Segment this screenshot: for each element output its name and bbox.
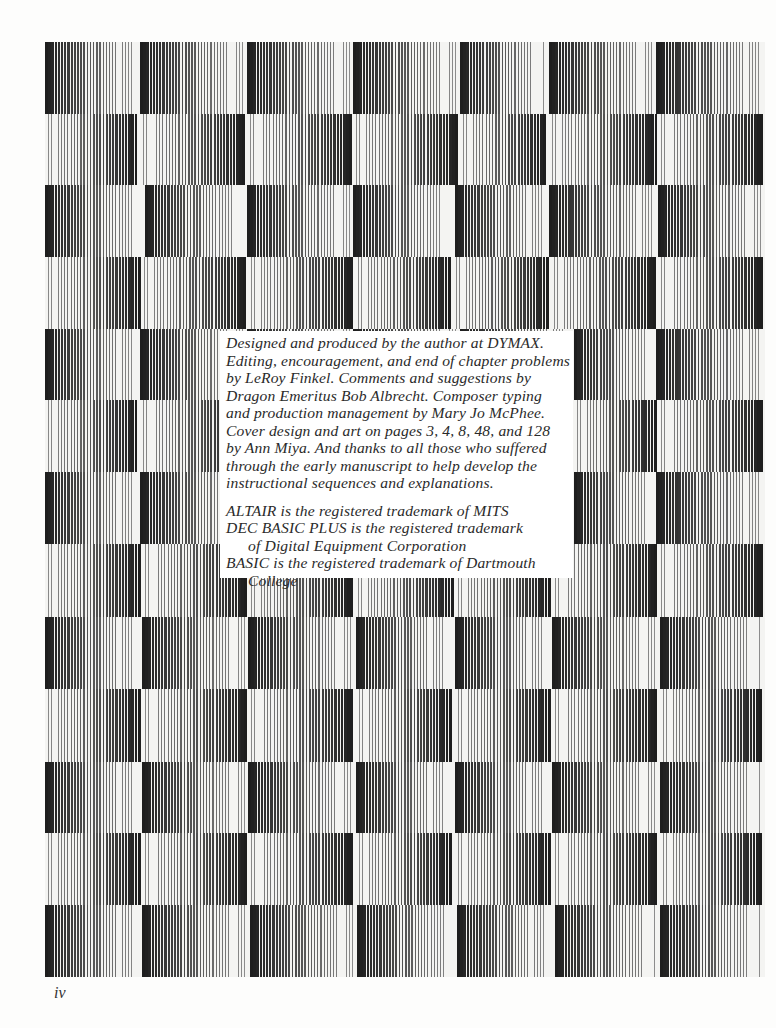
- pattern-tile: [549, 114, 658, 185]
- pattern-tile: [552, 833, 660, 905]
- paragraph-spacer: [226, 492, 573, 502]
- pattern-tile: [248, 689, 356, 762]
- pattern-tile: [247, 185, 353, 257]
- pattern-tile: [356, 617, 455, 689]
- trademark-line: DEC BASIC PLUS is the registered tradema…: [226, 519, 573, 537]
- credits-paragraph: Designed and produced by the author at D…: [226, 334, 573, 492]
- pattern-tile: [141, 257, 248, 329]
- pattern-tile: [551, 257, 658, 329]
- pattern-tile: [145, 185, 247, 257]
- pattern-tile: [45, 617, 142, 689]
- pattern-tile: [656, 472, 765, 544]
- pattern-tile: [45, 544, 142, 617]
- credits-line: Cover design and art on pages 3, 4, 8, 4…: [226, 422, 573, 440]
- pattern-tile: [552, 762, 660, 833]
- trademark-line-continued: College: [226, 572, 573, 590]
- pattern-tile: [453, 257, 551, 329]
- pattern-tile: [45, 329, 140, 400]
- pattern-tile: [353, 114, 460, 185]
- credits-line: Designed and produced by the author at D…: [226, 334, 573, 352]
- pattern-tile: [660, 833, 765, 905]
- pattern-tile: [658, 185, 765, 257]
- pattern-tile: [248, 257, 355, 329]
- pattern-tile: [460, 42, 549, 114]
- pattern-tile: [656, 329, 765, 400]
- credits-line: and production management by Mary Jo McP…: [226, 404, 573, 422]
- pattern-tile: [455, 833, 552, 905]
- trademark-notices: ALTAIR is the registered trademark of MI…: [226, 502, 573, 590]
- pattern-tile: [660, 617, 765, 689]
- pattern-tile: [45, 257, 141, 329]
- trademark-line-continued: of Digital Equipment Corporation: [226, 537, 573, 555]
- pattern-tile: [460, 114, 549, 185]
- pattern-tile: [457, 905, 555, 977]
- pattern-tile: [353, 42, 460, 114]
- pattern-tile: [140, 42, 247, 114]
- pattern-tile: [660, 905, 765, 977]
- pattern-tile: [355, 257, 453, 329]
- pattern-tile: [247, 42, 353, 114]
- pattern-tile: [250, 905, 357, 977]
- pattern-tile: [142, 689, 248, 762]
- pattern-tile: [248, 833, 356, 905]
- pattern-tile: [574, 329, 656, 400]
- credits-line: instructional sequences and explanations…: [226, 474, 573, 492]
- credits-line: by Ann Miya. And thanks to all those who…: [226, 439, 573, 457]
- pattern-tile: [555, 905, 660, 977]
- pattern-tile: [660, 689, 765, 762]
- pattern-tile: [142, 762, 248, 833]
- pattern-tile: [574, 400, 658, 472]
- pattern-tile: [455, 689, 552, 762]
- pattern-tile: [356, 762, 455, 833]
- pattern-tile: [658, 114, 765, 185]
- pattern-tile: [658, 544, 765, 617]
- pattern-tile: [656, 42, 765, 114]
- pattern-tile: [660, 762, 765, 833]
- pattern-tile: [45, 905, 142, 977]
- credits-box: Designed and produced by the author at D…: [220, 331, 573, 578]
- pattern-tile: [45, 689, 142, 762]
- pattern-tile: [574, 472, 656, 544]
- pattern-tile: [658, 400, 765, 472]
- book-page: Designed and produced by the author at D…: [0, 0, 776, 1028]
- pattern-tile: [142, 617, 248, 689]
- trademark-line: ALTAIR is the registered trademark of MI…: [226, 502, 573, 520]
- credits-line: by LeRoy Finkel. Comments and suggestion…: [226, 369, 573, 387]
- pattern-tile: [356, 833, 455, 905]
- pattern-tile: [45, 472, 140, 544]
- pattern-tile: [140, 114, 247, 185]
- pattern-tile: [45, 185, 145, 257]
- page-number: iv: [54, 984, 66, 1002]
- pattern-tile: [248, 762, 356, 833]
- credits-line: Dragon Emeritus Bob Albrecht. Composer t…: [226, 387, 573, 405]
- pattern-tile: [549, 185, 658, 257]
- pattern-tile: [455, 617, 552, 689]
- pattern-tile: [353, 185, 455, 257]
- pattern-tile: [552, 617, 660, 689]
- pattern-tile: [356, 689, 455, 762]
- credits-line: through the early manuscript to help dev…: [226, 457, 573, 475]
- pattern-tile: [45, 42, 140, 114]
- pattern-tile: [45, 833, 142, 905]
- trademark-line: BASIC is the registered trademark of Dar…: [226, 554, 573, 572]
- pattern-tile: [45, 114, 140, 185]
- pattern-tile: [142, 833, 248, 905]
- pattern-tile: [45, 400, 140, 472]
- credits-line: Editing, encouragement, and end of chapt…: [226, 352, 573, 370]
- pattern-tile: [552, 689, 660, 762]
- pattern-tile: [357, 905, 457, 977]
- pattern-tile: [658, 257, 765, 329]
- pattern-tile: [142, 905, 250, 977]
- pattern-tile: [455, 762, 552, 833]
- pattern-tile: [247, 114, 353, 185]
- pattern-tile: [45, 762, 142, 833]
- pattern-tile: [455, 185, 549, 257]
- pattern-tile: [248, 617, 356, 689]
- pattern-tile: [549, 42, 656, 114]
